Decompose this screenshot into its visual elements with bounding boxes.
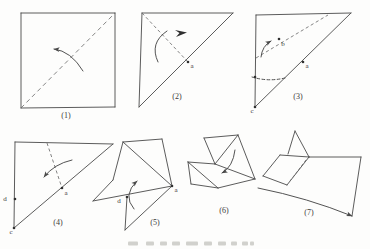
caption-character-fragment (160, 242, 167, 246)
paper-edge-line (113, 142, 123, 180)
point-label-a: a (64, 189, 68, 197)
reference-point-dot (126, 196, 129, 199)
fold-crease-dashed-line (256, 15, 328, 58)
fold-direction-arrow (222, 150, 235, 173)
paper-edge-line (280, 155, 309, 157)
step-1-figure: (1) (21, 13, 115, 120)
reference-point-dot (278, 38, 281, 41)
step-2-figure: a(2) (139, 13, 233, 107)
paper-edge-line (188, 162, 191, 184)
caption-cropped-text (128, 242, 254, 246)
fold-direction-arrow (252, 77, 285, 80)
step-number-label: (3) (293, 92, 303, 101)
point-label-a: a (305, 62, 309, 70)
reference-point-dot (187, 61, 190, 64)
step-7-figure: (7) (258, 131, 361, 218)
paper-edge-line (15, 142, 113, 144)
step-3-figure: bac(3) (250, 13, 351, 115)
step-number-label: (2) (172, 92, 182, 101)
step-number-label: (7) (304, 208, 314, 217)
reference-point-dot (14, 198, 17, 201)
paper-edge-line (256, 13, 351, 15)
paper-edge-line (215, 164, 255, 179)
caption-character-fragment (218, 242, 226, 246)
point-label-c: c (9, 228, 12, 236)
paper-edge-line (288, 131, 295, 154)
caption-character-fragment (186, 242, 198, 246)
paper-edge-line (255, 13, 351, 107)
paper-edge-line (21, 107, 115, 108)
caption-character-fragment (204, 242, 212, 246)
step-5-figure: da(5) (93, 139, 178, 230)
step-6-figure: (6) (188, 135, 255, 215)
point-label-a: a (174, 186, 178, 194)
paper-edge-line (204, 135, 238, 138)
fold-dart-icon (175, 30, 187, 37)
figure-panel: (1)a(2)bac(3)dac(4)da(5)(6)(7) (0, 0, 370, 249)
paper-edge-line (352, 157, 361, 216)
paper-edge-line (125, 186, 172, 230)
point-label-d: d (3, 195, 7, 203)
fold-crease-dashed-line (142, 13, 188, 62)
origami-diagram: (1)a(2)bac(3)dac(4)da(5)(6)(7) (0, 0, 370, 249)
caption-character-fragment (242, 242, 248, 246)
paper-edge-line (123, 142, 172, 186)
paper-edge-line (218, 179, 255, 188)
paper-edge-line (295, 131, 309, 157)
paper-edge-line (215, 135, 238, 164)
paper-edge-line (14, 142, 15, 228)
paper-edge-line (255, 15, 256, 107)
paper-edge-line (188, 162, 215, 164)
step-number-label: (1) (61, 111, 71, 120)
fold-crease-dashed-line (47, 143, 62, 188)
paper-edge-line (125, 197, 127, 230)
reference-point-dot (254, 106, 257, 109)
paper-edge-line (263, 176, 287, 185)
fold-crease-dashed-line (21, 13, 115, 108)
reference-point-dot (302, 61, 305, 64)
reference-point-dot (61, 187, 64, 190)
reference-point-dot (13, 227, 16, 230)
step-number-label: (4) (53, 218, 63, 227)
paper-edge-line (14, 144, 113, 228)
fold-direction-arrow (54, 49, 83, 71)
caption-character-fragment (128, 242, 138, 246)
paper-edge-line (263, 155, 280, 176)
caption-character-fragment (172, 242, 180, 246)
step-number-label: (6) (219, 206, 229, 215)
point-label-c: c (250, 107, 253, 115)
reference-point-dot (171, 185, 174, 188)
paper-edge-line (204, 138, 215, 164)
fold-direction-arrow (129, 181, 137, 209)
caption-character-fragment (146, 242, 154, 246)
step-4-figure: dac(4) (3, 142, 113, 236)
arrowhead-icon (53, 47, 59, 52)
paper-edge-line (123, 139, 162, 142)
caption-character-fragment (231, 242, 237, 246)
fold-direction-arrow (155, 31, 167, 62)
point-label-d: d (117, 197, 121, 205)
reference-point-dot (254, 76, 257, 79)
caption-character-fragment (250, 242, 254, 246)
step-number-label: (5) (150, 218, 160, 227)
point-label-a: a (190, 62, 194, 70)
paper-edge-line (238, 135, 255, 179)
paper-edge-line (139, 13, 142, 107)
point-label-b: b (281, 40, 285, 48)
